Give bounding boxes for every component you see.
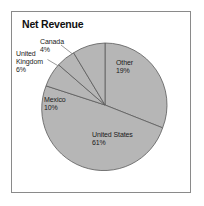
pie-label-united-kingdom: United Kingdom 6%: [16, 50, 56, 75]
pie-label-other: Other 19%: [116, 59, 133, 75]
pie-label-mexico: Mexico 10%: [44, 96, 66, 112]
chart-frame: Net Revenue Other 19% Canada 4% United K…: [11, 11, 191, 193]
pie-chart-graphic: [1, 1, 204, 206]
pie-label-united-states: United States 61%: [92, 131, 133, 147]
